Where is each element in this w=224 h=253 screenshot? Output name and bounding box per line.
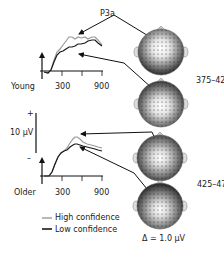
scale-plus: + [27,109,34,118]
topomap-young-low [134,78,188,127]
topomap-older-high [133,132,187,181]
window-label-1: 375–425 [196,76,224,85]
legend-high-label: High confidence [55,213,120,222]
p3a-label: P3a [100,9,115,18]
older-erp-panel [36,113,103,184]
young-tick-300: 300 [55,82,70,91]
young-tick-900: 900 [94,82,109,91]
older-label: Older [14,188,36,197]
scale-minus: – [27,154,31,163]
window-label-2: 425–475 [197,180,224,189]
topomap-young-high [134,26,188,75]
older-low-confidence-line [44,144,102,176]
scale-label: 10 μV [10,128,33,137]
topomap-older-low [133,180,187,229]
young-erp-panel [39,37,103,79]
delta-scale-label: Δ = 1.0 μV [142,234,185,243]
older-tick-300: 300 [55,188,70,197]
legend-low-label: Low confidence [55,225,117,234]
young-label: Young [11,82,35,91]
young-high-confidence-line [44,37,102,73]
older-tick-900: 900 [94,188,109,197]
